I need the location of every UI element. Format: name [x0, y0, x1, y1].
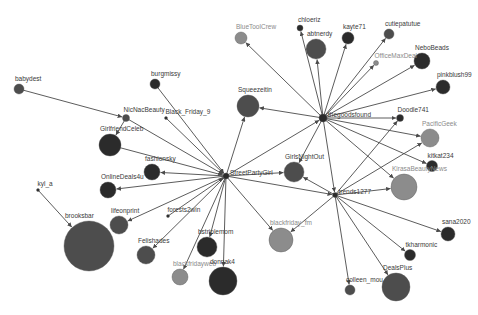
node-OfficeMaxDeal[interactable] [374, 61, 379, 66]
node-label-forests2win: forests2win [168, 206, 201, 213]
edge-trends1277-Doodle741 [335, 121, 397, 195]
node-label-OfficeMaxDeal: OfficeMaxDeal [375, 52, 418, 59]
node-kayte71[interactable] [342, 32, 354, 44]
node-label-kitkat234: kitkat234 [428, 152, 454, 159]
node-brooksbar[interactable] [64, 221, 114, 271]
node-GirlfriendCeleb[interactable] [99, 134, 121, 156]
node-label-colleen_mou: colleen_mou [346, 276, 383, 284]
node-label-babydest: babydest [15, 75, 42, 83]
edge-kyl_a-brooksbar [38, 190, 72, 227]
node-label-pinkblush99: pinkblush99 [437, 71, 472, 79]
node-blackfridayweb[interactable] [172, 269, 188, 285]
edge-trends1277-colleen_mou [335, 195, 349, 285]
node-KirasaBeautyNews[interactable] [391, 174, 417, 200]
node-forests2win[interactable] [167, 215, 170, 218]
node-label-burgmissy: burgmissy [151, 70, 181, 78]
node-label-tkharmonic: tkharmonic [406, 241, 439, 248]
node-label-thegoodsfound: thegoodsfound [328, 111, 371, 119]
edge-thegoodsfound-cutiepatutue [323, 38, 386, 118]
node-label-sana2020: sana2020 [442, 218, 471, 225]
edge-trends1277-sana2020 [335, 195, 441, 232]
node-donnak4[interactable] [209, 267, 237, 295]
edge-trends1277-DealsPlus [335, 195, 388, 275]
node-chloeriz[interactable] [297, 25, 303, 31]
edge-StreetPartyGirl-Squeezeitin [226, 117, 245, 176]
node-label-Doodle741: Doodle741 [398, 106, 430, 113]
node-GirlsNightOut[interactable] [284, 162, 304, 182]
node-label-kyl_a: kyl_a [38, 180, 54, 188]
node-label-Felishades: Felishades [138, 237, 170, 244]
node-label-trends1277: trends1277 [339, 188, 372, 195]
node-label-NicNacBeauty: NicNacBeauty [124, 106, 166, 114]
node-trends1277[interactable] [333, 193, 338, 198]
node-colleen_mou[interactable] [345, 285, 355, 295]
edge-thegoodsfound-KirasaBeautyNews [323, 118, 394, 178]
edge-trends1277-blackfriday_fm [291, 195, 335, 232]
node-label-abtnerdy: abtnerdy [307, 30, 333, 38]
node-Black_Friday_9[interactable] [165, 117, 168, 120]
node-Squeezeitin[interactable] [237, 95, 259, 117]
node-lifeonprint[interactable] [110, 216, 128, 234]
edge-StreetPartyGirl-thegoodsfound [226, 120, 319, 176]
node-PacificGeek[interactable] [421, 129, 439, 147]
node-label-blackfriday_fm: blackfriday_fm [270, 219, 312, 227]
node-label-cutiepatutue: cutiepatutue [385, 20, 421, 28]
node-NicNacBeauty[interactable] [123, 115, 130, 122]
node-cutiepatutue[interactable] [384, 29, 394, 39]
edge-trends1277-tkharmonic [335, 195, 405, 251]
node-pinkblush99[interactable] [436, 80, 450, 94]
node-label-GirlsNightOut: GirlsNightOut [285, 153, 324, 161]
node-label-kayte71: kayte71 [343, 23, 366, 31]
node-babydest[interactable] [14, 84, 24, 94]
node-tkharmonic[interactable] [405, 250, 416, 261]
edge-StreetPartyGirl-blackfriday_fm [226, 176, 273, 231]
edge-thegoodsfound-abtnerdy [317, 59, 323, 118]
node-blackfriday_fm[interactable] [269, 228, 293, 252]
node-fashionsky[interactable] [144, 164, 160, 180]
node-DealsPlus[interactable] [382, 273, 410, 301]
node-label-OnlineDeals4u: OnlineDeals4u [101, 173, 144, 180]
node-Felishades[interactable] [137, 246, 155, 264]
node-label-KirasaBeautyNews: KirasaBeautyNews [392, 165, 448, 173]
node-label-brooksbar: brooksbar [65, 212, 95, 219]
edge-thegoodsfound-trends1277 [323, 118, 335, 192]
network-graph: StreetPartyGirlthegoodsfoundtrends1277ba… [0, 0, 478, 315]
node-label-lifeonprint: lifeonprint [111, 207, 139, 215]
edge-babydest-NicNacBeauty [19, 89, 122, 117]
node-label-fashionsky: fashionsky [145, 155, 176, 163]
node-label-bstriplemom: bstriplemom [198, 228, 233, 236]
node-label-Squeezeitin: Squeezeitin [238, 86, 272, 94]
edge-thegoodsfound-Squeezeitin [259, 108, 323, 118]
edge-thegoodsfound-PacificGeek [323, 118, 421, 136]
node-label-Black_Friday_9: Black_Friday_9 [166, 108, 211, 116]
node-sana2020[interactable] [441, 227, 455, 241]
edge-StreetPartyGirl-lifeonprint [128, 176, 226, 221]
node-abtnerdy[interactable] [306, 39, 326, 59]
edge-StreetPartyGirl-donnak4 [223, 176, 226, 267]
node-label-GirlfriendCeleb: GirlfriendCeleb [100, 125, 144, 132]
node-thegoodsfound[interactable] [319, 114, 327, 122]
node-label-DealsPlus: DealsPlus [383, 264, 413, 271]
edge-StreetPartyGirl-trends1277 [226, 176, 332, 194]
node-BlueToolCrew[interactable] [235, 32, 247, 44]
edge-thegoodsfound-kitkat234 [323, 118, 427, 164]
node-label-StreetPartyGirl: StreetPartyGirl [230, 169, 273, 177]
node-StreetPartyGirl[interactable] [223, 173, 229, 179]
node-label-PacificGeek: PacificGeek [422, 120, 457, 127]
node-OnlineDeals4u[interactable] [100, 182, 116, 198]
node-bstriplemom[interactable] [197, 237, 217, 257]
node-label-chloeriz: chloeriz [298, 16, 320, 23]
node-label-donnak4: donnak4 [210, 258, 235, 265]
node-label-BlueToolCrew: BlueToolCrew [236, 23, 276, 30]
node-Doodle741[interactable] [397, 115, 404, 122]
node-burgmissy[interactable] [150, 79, 160, 89]
node-label-NeboBeads: NeboBeads [415, 44, 450, 51]
node-kyl_a[interactable] [37, 189, 40, 192]
